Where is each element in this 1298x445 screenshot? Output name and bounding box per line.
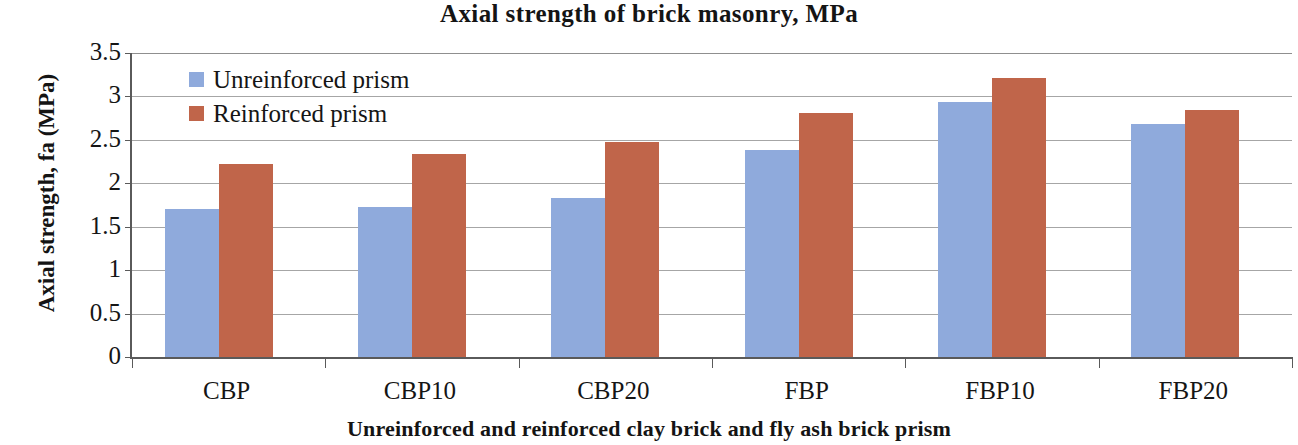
bar-cbp-reinforced — [219, 164, 273, 357]
x-tick-mark — [132, 357, 133, 368]
x-tick-mark — [519, 357, 520, 368]
gridline — [132, 314, 1292, 315]
bar-cbp20-unreinforced — [551, 198, 605, 357]
y-tick-label: 1.5 — [90, 212, 121, 240]
bar-fbp10-reinforced — [992, 78, 1046, 357]
y-tick-label: 0.5 — [90, 299, 121, 327]
bar-fbp-reinforced — [799, 113, 853, 357]
bar-fbp20-unreinforced — [1131, 124, 1185, 357]
bar-fbp10-unreinforced — [938, 102, 992, 357]
legend-item-reinforced: Reinforced prism — [189, 96, 489, 130]
x-category-label-fbp10: FBP10 — [965, 377, 1034, 405]
gridline — [132, 140, 1292, 141]
bar-cbp10-reinforced — [412, 154, 466, 357]
x-category-label-fbp20: FBP20 — [1159, 377, 1228, 405]
x-tick-mark — [905, 357, 906, 368]
x-axis-title: Unreinforced and reinforced clay brick a… — [0, 416, 1298, 442]
y-tick-mark — [125, 314, 132, 315]
chart-title: Axial strength of brick masonry, MPa — [0, 0, 1298, 28]
y-tick-mark — [125, 357, 132, 358]
y-tick-label: 1 — [109, 256, 122, 284]
legend-item-unreinforced: Unreinforced prism — [189, 62, 489, 96]
x-tick-mark — [1292, 357, 1293, 368]
bar-cbp-unreinforced — [165, 209, 219, 357]
y-tick-mark — [125, 227, 132, 228]
legend-label-unreinforced: Unreinforced prism — [213, 67, 409, 92]
y-tick-mark — [125, 270, 132, 271]
y-tick-label: 3 — [109, 82, 122, 110]
chart-legend: Unreinforced prism Reinforced prism — [189, 62, 489, 130]
gridline — [132, 183, 1292, 184]
x-tick-mark — [325, 357, 326, 368]
bar-fbp-unreinforced — [745, 150, 799, 357]
bar-fbp20-reinforced — [1185, 110, 1239, 357]
y-tick-mark — [125, 96, 132, 97]
x-tick-mark — [1099, 357, 1100, 368]
x-category-label-cbp10: CBP10 — [384, 377, 456, 405]
bar-cbp10-unreinforced — [358, 207, 412, 357]
y-tick-mark — [125, 53, 132, 54]
y-tick-mark — [125, 140, 132, 141]
y-tick-label: 2.5 — [90, 125, 121, 153]
y-tick-label: 3.5 — [90, 38, 121, 66]
gridline — [132, 270, 1292, 271]
x-category-label-cbp: CBP — [203, 377, 250, 405]
y-tick-label: 2 — [109, 169, 122, 197]
legend-swatch-reinforced-icon — [189, 106, 204, 121]
y-tick-label: 0 — [109, 342, 122, 370]
y-tick-mark — [125, 183, 132, 184]
bar-cbp20-reinforced — [605, 142, 659, 357]
legend-label-reinforced: Reinforced prism — [213, 101, 387, 126]
x-tick-mark — [712, 357, 713, 368]
bar-chart: Axial strength of brick masonry, MPa Axi… — [0, 0, 1298, 445]
legend-swatch-unreinforced-icon — [189, 72, 204, 87]
x-category-label-cbp20: CBP20 — [577, 377, 649, 405]
x-category-label-fbp: FBP — [784, 377, 828, 405]
gridline — [132, 53, 1292, 54]
y-axis-title: Axial strength, fa (MPa) — [34, 28, 60, 358]
gridline — [132, 227, 1292, 228]
